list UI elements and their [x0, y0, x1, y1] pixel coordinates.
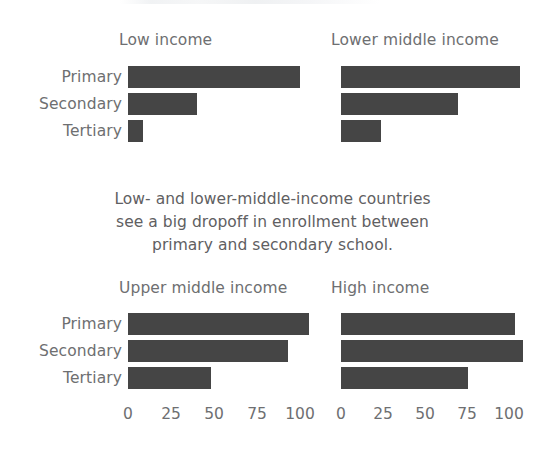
x-tick-100: 100 — [494, 404, 524, 424]
caption-line-1: Low- and lower-middle-income countries — [0, 188, 545, 211]
cropped-text-remnant — [120, 0, 380, 4]
category-label-tertiary: Tertiary — [10, 118, 122, 145]
chart-caption: Low- and lower-middle-income countries s… — [0, 188, 545, 257]
bar-high-income-primary — [341, 313, 515, 335]
bar-upper-middle-income-tertiary — [128, 367, 211, 389]
plot-high-income — [341, 311, 531, 392]
bar-high-income-tertiary — [341, 367, 468, 389]
bar-row-primary — [341, 311, 531, 338]
x-tick-50: 50 — [415, 404, 435, 424]
bar-low-income-tertiary — [128, 120, 143, 142]
panel-title-upper-middle-income: Upper middle income — [119, 279, 287, 298]
bar-row-secondary — [128, 338, 318, 365]
bar-row-secondary — [341, 338, 531, 365]
bar-row-tertiary — [128, 118, 318, 145]
x-tick-75: 75 — [247, 404, 267, 424]
bar-upper-middle-income-secondary — [128, 340, 288, 362]
bar-low-income-primary — [128, 66, 300, 88]
bar-row-primary — [128, 311, 318, 338]
panel-title-lower-middle-income: Lower middle income — [331, 31, 499, 50]
bar-row-tertiary — [128, 365, 318, 392]
x-tick-25: 25 — [373, 404, 393, 424]
bar-lower-middle-income-primary — [341, 66, 520, 88]
bar-lower-middle-income-tertiary — [341, 120, 381, 142]
bar-row-secondary — [341, 91, 531, 118]
plot-low-income — [128, 64, 318, 145]
x-tick-0: 0 — [336, 404, 346, 424]
category-label-primary: Primary — [10, 311, 122, 338]
panel-title-high-income: High income — [331, 279, 429, 298]
bar-row-tertiary — [341, 118, 531, 145]
plot-lower-middle-income — [341, 64, 531, 145]
x-tick-100: 100 — [285, 404, 315, 424]
category-label-primary: Primary — [10, 64, 122, 91]
panel-title-low-income: Low income — [119, 31, 212, 50]
category-label-secondary: Secondary — [10, 338, 122, 365]
bar-row-primary — [341, 64, 531, 91]
x-axis-high-income: 0 25 50 75 100 — [341, 404, 531, 424]
category-labels-low-income: Primary Secondary Tertiary — [10, 64, 122, 145]
category-label-tertiary: Tertiary — [10, 365, 122, 392]
bar-row-secondary — [128, 91, 318, 118]
caption-line-3: primary and secondary school. — [0, 234, 545, 257]
caption-line-2: see a big dropoff in enrollment between — [0, 211, 545, 234]
x-tick-50: 50 — [204, 404, 224, 424]
bar-lower-middle-income-secondary — [341, 93, 458, 115]
x-tick-0: 0 — [123, 404, 133, 424]
bar-high-income-secondary — [341, 340, 523, 362]
bar-low-income-secondary — [128, 93, 197, 115]
category-label-secondary: Secondary — [10, 91, 122, 118]
bar-row-primary — [128, 64, 318, 91]
x-axis-upper-middle-income: 0 25 50 75 100 — [128, 404, 318, 424]
x-tick-25: 25 — [161, 404, 181, 424]
bar-upper-middle-income-primary — [128, 313, 309, 335]
plot-upper-middle-income — [128, 311, 318, 392]
bar-row-tertiary — [341, 365, 531, 392]
category-labels-upper-middle-income: Primary Secondary Tertiary — [10, 311, 122, 392]
x-tick-75: 75 — [457, 404, 477, 424]
